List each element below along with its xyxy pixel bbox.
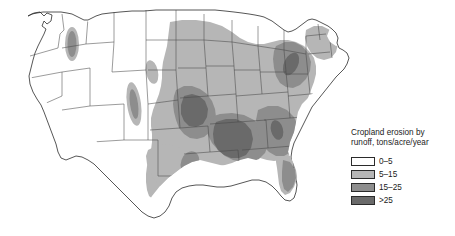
- legend-label-15-25: 15–25: [379, 183, 402, 192]
- legend-label-5-15: 5–15: [379, 170, 397, 179]
- cropland-erosion-map-figure: Cropland erosion by runoff, tons/acre/ye…: [0, 0, 455, 236]
- legend-item-5-15: 5–15: [351, 168, 451, 181]
- legend-swatch-0-5: [351, 157, 375, 166]
- legend-title-line-2: runoff, tons/acre/year: [351, 138, 451, 148]
- legend-item-0-5: 0–5: [351, 155, 451, 168]
- map-legend: Cropland erosion by runoff, tons/acre/ye…: [351, 128, 451, 207]
- legend-swatch-5-15: [351, 170, 375, 179]
- legend-items: 0–5 5–15 15–25 >25: [351, 155, 451, 207]
- legend-item-15-25: 15–25: [351, 181, 451, 194]
- legend-label-0-5: 0–5: [379, 157, 393, 166]
- legend-item-over-25: >25: [351, 194, 451, 207]
- legend-title: Cropland erosion by runoff, tons/acre/ye…: [351, 128, 451, 148]
- legend-swatch-over-25: [351, 196, 375, 205]
- legend-title-line-1: Cropland erosion by: [351, 128, 451, 138]
- legend-label-over-25: >25: [379, 196, 393, 205]
- legend-swatch-15-25: [351, 183, 375, 192]
